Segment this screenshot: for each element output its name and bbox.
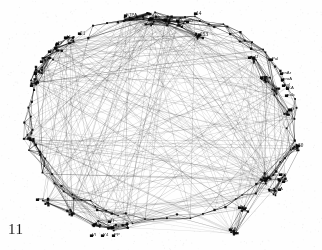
node-label-n9: 21 — [80, 31, 85, 36]
node-label-n14: pd — [32, 83, 37, 87]
node-label-n29: 36 — [231, 227, 236, 232]
node-label-n32: PO — [113, 225, 119, 229]
node-label-n3: TBI — [166, 17, 173, 21]
node-label-n17: pl — [262, 75, 265, 79]
node-label-n1: STPA — [126, 13, 137, 17]
node-label-n8: 11 — [66, 35, 71, 40]
node-label-n26: ar — [284, 179, 288, 183]
node-label-n11: SP — [50, 49, 56, 53]
node-label-n12: KP — [42, 59, 48, 63]
figure-container: 11 STPATBSTBISLz0142531121PISPKPPopdpalJ… — [0, 0, 322, 250]
node-label-n10: PI — [58, 41, 62, 45]
node-label-n23: G — [291, 107, 294, 111]
node-label-n19: proA — [283, 77, 292, 81]
node-label-n7: 253 — [200, 32, 208, 37]
node-label-n16: Pal — [272, 57, 278, 61]
node-label-n27: A — [280, 187, 283, 191]
node-label-n5: z0 — [188, 19, 193, 23]
node-label-n33: VI — [92, 233, 96, 237]
network-graph-canvas — [0, 0, 322, 250]
node-label-n18: pnAr — [282, 71, 291, 75]
node-label-n6: 14 — [196, 11, 201, 16]
node-label-n21: KA — [288, 86, 294, 90]
node-label-n4: SL — [178, 18, 183, 22]
node-label-n30: vor — [38, 197, 44, 201]
node-label-n2: TBS — [152, 16, 160, 20]
node-label-n22: palc — [287, 93, 295, 97]
figure-number: 11 — [8, 222, 23, 237]
node-label-n31: TI — [110, 219, 114, 223]
node-label-n13: Po — [36, 71, 41, 75]
node-label-n24: 30 — [298, 143, 303, 148]
node-label-n34: Y4 — [103, 233, 108, 237]
node-label-n15: palJ — [250, 55, 258, 59]
node-label-n25: av — [281, 172, 286, 176]
node-label-n35: PP — [114, 233, 120, 237]
node-label-n28: 24 — [240, 205, 245, 210]
